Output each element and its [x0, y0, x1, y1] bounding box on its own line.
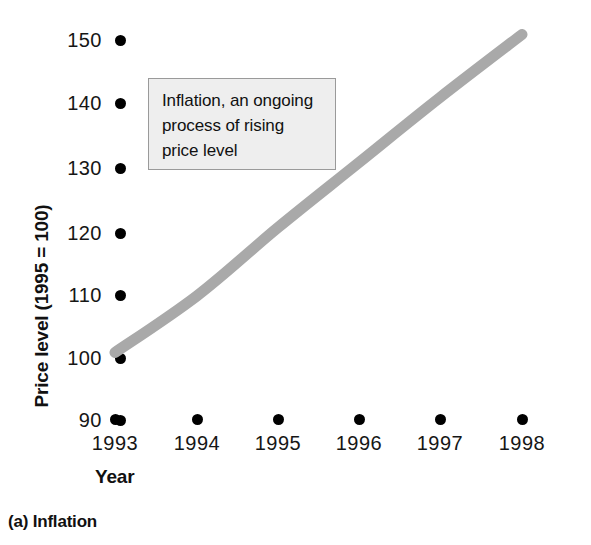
y-tick-dot-marker: [115, 228, 126, 239]
y-tick-label: 120: [67, 222, 102, 244]
annotation-text: Inflation, an ongoingprocess of risingpr…: [162, 88, 324, 163]
figure-caption: (a) Inflation: [8, 512, 97, 532]
x-tick-dot-marker: [435, 414, 446, 425]
y-tick-label: 100: [67, 347, 102, 369]
y-tick: 150: [56, 29, 126, 51]
y-tick: 140: [56, 92, 126, 114]
annotation-line: price level: [162, 138, 324, 163]
y-tick-label: 140: [67, 92, 102, 114]
annotation-line: Inflation, an ongoing: [162, 88, 324, 113]
x-tick-dot-marker: [517, 414, 528, 425]
y-tick: 120: [56, 222, 126, 244]
x-tick-label: 1994: [157, 432, 237, 455]
y-tick-dot-marker: [115, 163, 126, 174]
y-tick-label: 130: [67, 157, 102, 179]
y-tick-label: 110: [69, 284, 102, 306]
x-tick-dot-marker: [273, 414, 284, 425]
inflation-figure: Price level (1995 = 100) 150140130120110…: [0, 0, 591, 545]
y-tick-label: 90: [79, 409, 102, 431]
x-tick-dot-marker: [110, 414, 121, 425]
x-tick-label: 1993: [75, 432, 155, 455]
x-tick-label: 1996: [319, 432, 399, 455]
x-tick-label: 1998: [482, 432, 562, 455]
x-axis-title: Year: [95, 466, 134, 488]
y-tick-dot-marker: [115, 290, 126, 301]
y-tick: 100: [56, 347, 126, 369]
x-tick-label: 1995: [238, 432, 318, 455]
y-tick-dot-marker: [115, 353, 126, 364]
x-tick-dot-marker: [354, 414, 365, 425]
y-tick: 110: [56, 284, 126, 306]
y-tick-dot-marker: [115, 98, 126, 109]
y-tick-dot-marker: [115, 35, 126, 46]
y-tick-label: 150: [67, 29, 102, 51]
x-tick-dot-marker: [192, 414, 203, 425]
annotation-line: process of rising: [162, 113, 324, 138]
y-axis-title: Price level (1995 = 100): [31, 186, 53, 426]
x-tick-label: 1997: [400, 432, 480, 455]
y-tick: 130: [56, 157, 126, 179]
annotation-box: Inflation, an ongoingprocess of risingpr…: [148, 78, 336, 170]
